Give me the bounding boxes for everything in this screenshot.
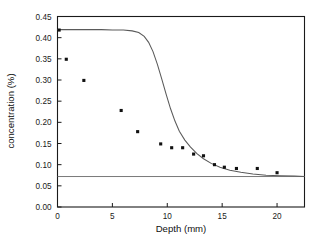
x-axis-title: Depth (mm) — [156, 223, 207, 234]
chart-figure: 0.000.050.100.150.200.250.300.350.400.45… — [0, 0, 321, 244]
y-tick-label: 0.10 — [36, 161, 52, 170]
data-point-marker — [213, 163, 216, 166]
data-point-marker — [170, 146, 173, 149]
data-point-marker — [202, 154, 205, 157]
y-tick-label: 0.20 — [36, 118, 52, 127]
x-tick-label: 10 — [163, 212, 173, 221]
y-tick-label: 0.40 — [36, 34, 52, 43]
y-tick-label: 0.05 — [36, 182, 52, 191]
y-tick-label: 0.45 — [36, 13, 52, 22]
y-axis-title: concentration (%) — [5, 73, 16, 148]
data-point-marker — [120, 109, 123, 112]
data-point-marker — [276, 171, 279, 174]
y-tick-label: 0.25 — [36, 97, 52, 106]
data-point-marker — [82, 79, 85, 82]
x-tick-label: 5 — [110, 212, 115, 221]
y-tick-label: 0.15 — [36, 140, 52, 149]
data-point-marker — [58, 29, 61, 32]
x-tick-label: 0 — [55, 212, 60, 221]
data-point-marker — [256, 167, 259, 170]
data-point-marker — [181, 146, 184, 149]
data-point-marker — [192, 153, 195, 156]
data-point-marker — [235, 167, 238, 170]
y-tick-label: 0.35 — [36, 55, 52, 64]
data-point-marker — [223, 166, 226, 169]
x-tick-label: 20 — [273, 212, 283, 221]
data-point-marker — [65, 58, 68, 61]
x-tick-label: 15 — [218, 212, 228, 221]
data-point-marker — [159, 142, 162, 145]
y-tick-label: 0.30 — [36, 76, 52, 85]
data-point-marker — [136, 130, 139, 133]
y-tick-label: 0.00 — [36, 203, 52, 212]
concentration-vs-depth-chart: 0.000.050.100.150.200.250.300.350.400.45… — [0, 0, 321, 244]
